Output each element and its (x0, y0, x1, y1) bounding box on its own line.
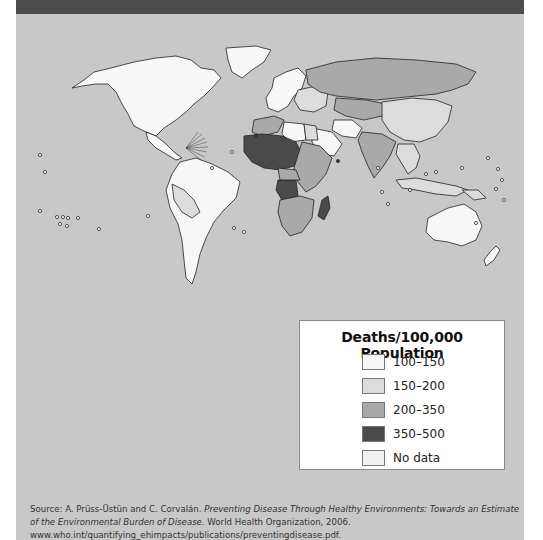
region-egypt (304, 124, 318, 140)
region-indonesia (396, 178, 468, 196)
region-greenland (226, 46, 271, 78)
legend-swatch (362, 402, 385, 418)
legend-item-100-150: 100–150 (362, 353, 445, 370)
region-australia (426, 204, 482, 246)
legend-label: 100–150 (393, 355, 445, 369)
legend-label: 350–500 (393, 427, 445, 441)
region-russia (306, 58, 476, 100)
legend-item-150-200: 150–200 (362, 377, 445, 394)
region-southern-africa (278, 196, 314, 236)
source-citation: Source: A. Prüss-Üstün and C. Corvalán. … (30, 503, 520, 540)
world-choropleth-map (16, 40, 524, 300)
legend-label: 150–200 (393, 379, 445, 393)
region-papua (462, 190, 486, 200)
legend-swatch (362, 426, 385, 442)
region-central-america (146, 132, 182, 160)
legend-swatch (362, 378, 385, 394)
top-band (16, 0, 524, 14)
region-southeast-asia (396, 144, 420, 174)
legend-item-200-350: 200–350 (362, 401, 445, 418)
legend-item-no-data: No data (362, 449, 440, 466)
region-india (358, 132, 396, 178)
legend-label: No data (393, 451, 440, 465)
region-south-america (166, 158, 240, 284)
legend-label: 200–350 (393, 403, 445, 417)
region-central-asia (334, 98, 386, 120)
legend-item-350-500: 350–500 (362, 425, 445, 442)
region-north-africa-west (252, 116, 284, 136)
region-iran (332, 120, 362, 138)
region-north-america (72, 56, 221, 136)
region-madagascar (318, 196, 330, 220)
region-new-zealand (484, 246, 500, 266)
map-legend: Deaths/100,000 Population 100–150 150–20… (299, 320, 505, 470)
legend-swatch (362, 354, 385, 370)
region-china (382, 98, 452, 142)
source-prefix: Source: A. Prüss-Üstün and C. Corvalán. (30, 504, 204, 514)
legend-swatch (362, 450, 385, 466)
